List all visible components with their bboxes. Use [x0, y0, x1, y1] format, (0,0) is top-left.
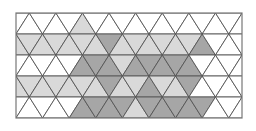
- triangle-cell: [242, 13, 256, 34]
- triangle-grid: [0, 0, 256, 131]
- triangle-cell: [242, 97, 256, 118]
- triangle-cell: [242, 76, 256, 97]
- triangle-cell: [242, 34, 256, 55]
- triangle-cell: [242, 55, 256, 76]
